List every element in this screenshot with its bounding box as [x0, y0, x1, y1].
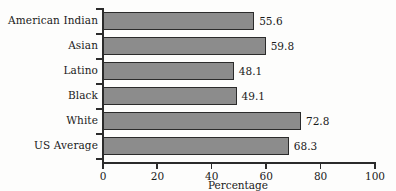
x-axis-tick [211, 163, 213, 169]
x-axis-tick [320, 163, 322, 169]
bar-asian [103, 37, 266, 55]
x-axis-line [102, 162, 376, 164]
bar-black [103, 87, 237, 105]
category-label-asian: Asian [68, 39, 98, 51]
category-label-white: White [66, 114, 98, 126]
y-axis-tick [96, 133, 103, 135]
x-axis-title-text: Percentage [208, 179, 268, 191]
category-label-american-indian: American Indian [8, 14, 98, 26]
y-axis-tick [96, 58, 103, 60]
x-axis-title: Percentage [0, 179, 396, 191]
value-label-asian: 59.8 [271, 40, 294, 52]
x-axis-tick [102, 163, 104, 169]
category-label-black: Black [68, 89, 98, 101]
value-label-white: 72.8 [306, 115, 329, 127]
bar-white [103, 112, 301, 130]
value-label-black: 49.1 [242, 90, 265, 102]
y-axis-tick [96, 108, 103, 110]
y-axis-tick [96, 33, 103, 35]
plot-area: 55.6 59.8 48.1 49.1 72.8 68.3 [103, 9, 375, 162]
value-label-latino: 48.1 [239, 65, 262, 77]
y-axis-tick [96, 8, 103, 10]
x-axis-tick [156, 163, 158, 169]
y-axis-tick [96, 83, 103, 85]
category-label-latino: Latino [64, 64, 99, 76]
y-axis-line [102, 8, 104, 163]
bar-us-average [103, 137, 289, 155]
bar-american-indian [103, 12, 254, 30]
bar-latino [103, 62, 234, 80]
y-axis-tick [96, 158, 103, 160]
x-axis-tick [265, 163, 267, 169]
value-label-american-indian: 55.6 [259, 15, 282, 27]
category-label-us-average: US Average [34, 139, 98, 151]
value-label-us-average: 68.3 [294, 140, 317, 152]
bar-chart: American Indian Asian Latino Black White… [0, 0, 396, 191]
x-axis-tick [374, 163, 376, 169]
